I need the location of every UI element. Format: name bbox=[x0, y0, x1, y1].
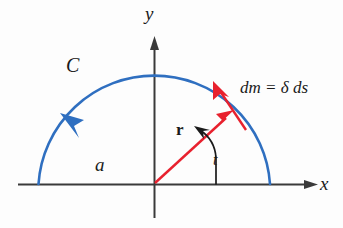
diagram-svg bbox=[0, 0, 343, 228]
position-vector-label-r: r bbox=[176, 121, 184, 138]
curve-direction-arrowhead bbox=[60, 113, 84, 138]
mass-element-label: dm = δ ds bbox=[240, 79, 308, 96]
figure-canvas: y x C a t r dm = δ ds bbox=[0, 0, 343, 228]
y-axis-label: y bbox=[145, 4, 153, 23]
x-axis-label: x bbox=[320, 174, 328, 193]
x-axis-arrowhead bbox=[304, 180, 318, 189]
position-vector-group bbox=[155, 110, 234, 183]
radius-label-a: a bbox=[95, 155, 105, 174]
axes-group bbox=[18, 36, 318, 218]
curve-label-c: C bbox=[66, 55, 79, 75]
angle-label-t: t bbox=[213, 152, 217, 168]
position-vector-arrowhead bbox=[216, 110, 234, 127]
y-axis-arrowhead bbox=[150, 36, 159, 50]
